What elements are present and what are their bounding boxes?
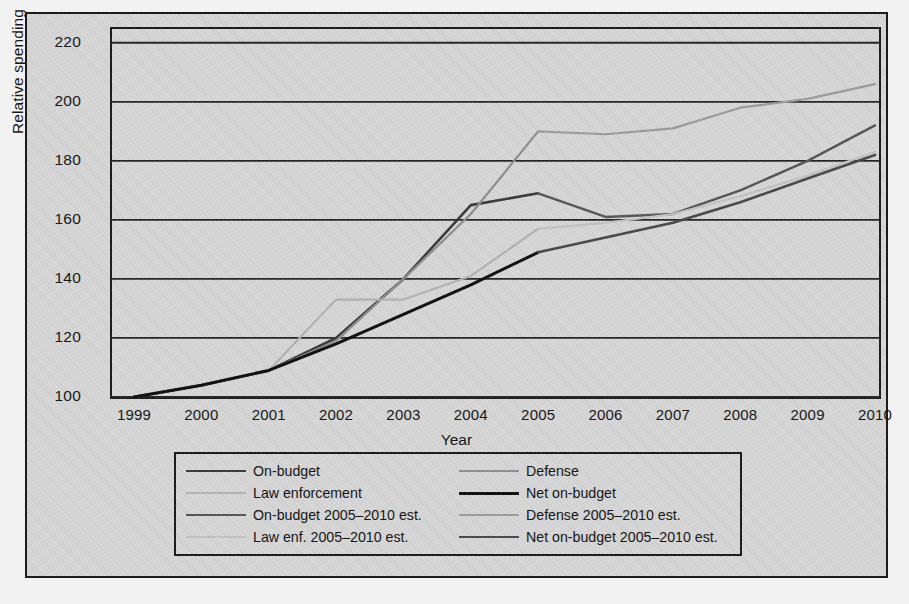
y-tick-label-140: 140 [35, 269, 81, 287]
figure: Relative spending 100120140160180200220 … [0, 0, 909, 604]
legend-swatch [459, 492, 519, 495]
plot-area [110, 27, 881, 399]
series-line-on-budget-2005-2010-est [538, 125, 875, 217]
y-tick-label-200: 200 [35, 92, 81, 110]
legend-swatch [459, 536, 519, 538]
x-tick-label-2006: 2006 [588, 406, 622, 423]
legend-swatch [459, 470, 519, 472]
series-line-net-on-budget [134, 252, 538, 397]
legend-label: Defense [526, 463, 579, 479]
x-tick-label-2007: 2007 [656, 406, 690, 423]
y-tick-label-220: 220 [35, 33, 81, 51]
line-chart-svg [110, 27, 881, 399]
y-tick-label-160: 160 [35, 210, 81, 228]
x-tick-label-2003: 2003 [386, 406, 420, 423]
y-axis-ticks: 100120140160180200220 [35, 14, 81, 386]
series-line-law-enf-2005-2010-est [538, 152, 875, 229]
legend-item: On-budget 2005–2010 est. [186, 504, 459, 526]
x-axis-ticks: 1999200020012002200320042005200620072008… [110, 406, 881, 430]
series-line-defense [134, 131, 538, 397]
x-tick-label-2008: 2008 [723, 406, 757, 423]
legend-label: Defense 2005–2010 est. [526, 507, 681, 523]
legend-swatch [459, 514, 519, 516]
legend-item: Net on-budget 2005–2010 est. [459, 526, 732, 548]
x-tick-label-2010: 2010 [858, 406, 892, 423]
legend-label: On-budget 2005–2010 est. [253, 507, 422, 523]
y-axis-label: Relative spending [9, 0, 27, 134]
x-tick-label-2002: 2002 [319, 406, 353, 423]
y-tick-label-120: 120 [35, 328, 81, 346]
legend-item: Defense [459, 460, 732, 482]
y-tick-label-100: 100 [35, 387, 81, 405]
legend-item: Law enforcement [186, 482, 459, 504]
legend-item: Law enf. 2005–2010 est. [186, 526, 459, 548]
plot-frame [111, 28, 880, 398]
series-line-law-enforcement [134, 229, 538, 397]
legend-item: On-budget [186, 460, 459, 482]
legend-swatch [186, 514, 246, 516]
legend-swatch [186, 536, 246, 538]
x-tick-label-1999: 1999 [117, 406, 151, 423]
x-tick-label-2005: 2005 [521, 406, 555, 423]
legend-item: Defense 2005–2010 est. [459, 504, 732, 526]
legend: On-budgetDefenseLaw enforcementNet on-bu… [174, 452, 742, 556]
x-axis-label: Year [27, 431, 886, 449]
legend-label: On-budget [253, 463, 320, 479]
chart-panel: Relative spending 100120140160180200220 … [25, 12, 888, 578]
legend-swatch [186, 470, 246, 472]
x-tick-label-2009: 2009 [791, 406, 825, 423]
x-tick-label-2001: 2001 [252, 406, 286, 423]
series-line-on-budget [134, 193, 538, 397]
legend-swatch [186, 492, 246, 494]
legend-item: Net on-budget [459, 482, 732, 504]
x-tick-label-2000: 2000 [184, 406, 218, 423]
series-line-defense-2005-2010-est [538, 84, 875, 134]
legend-label: Law enforcement [253, 485, 362, 501]
legend-label: Net on-budget 2005–2010 est. [526, 529, 718, 545]
legend-label: Law enf. 2005–2010 est. [253, 529, 408, 545]
legend-label: Net on-budget [526, 485, 616, 501]
legend-grid: On-budgetDefenseLaw enforcementNet on-bu… [176, 454, 740, 554]
x-tick-label-2004: 2004 [454, 406, 488, 423]
y-tick-label-180: 180 [35, 151, 81, 169]
